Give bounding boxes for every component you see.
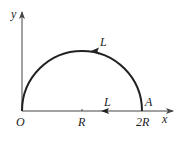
semicircle-arc — [22, 51, 142, 111]
tick-label-2r: 2R — [136, 115, 150, 129]
x-axis-label: x — [161, 112, 168, 126]
tick-label-r: R — [77, 115, 86, 129]
arc-label: L — [99, 35, 107, 49]
diameter-label: L — [103, 95, 111, 109]
arc-direction-arrow-icon — [91, 48, 99, 55]
point-a-label: A — [144, 95, 153, 109]
semicircle-path-diagram: y x O R 2R A L L — [0, 0, 180, 142]
origin-label: O — [16, 115, 25, 129]
y-axis-label: y — [10, 7, 17, 21]
